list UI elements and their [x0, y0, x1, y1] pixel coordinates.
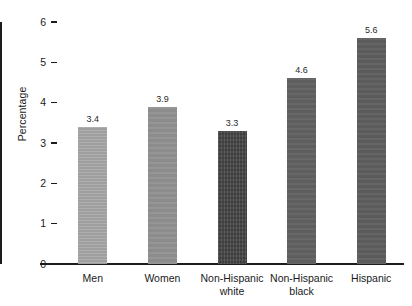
bar — [287, 78, 316, 264]
bar-value-label: 5.6 — [351, 26, 392, 35]
x-axis-category-label: Non-Hispanic white — [195, 272, 269, 297]
x-axis-category-label: Non-Hispanic black — [265, 272, 339, 297]
bar-group — [357, 0, 386, 264]
bar — [148, 107, 177, 264]
bar — [78, 127, 107, 264]
bar — [357, 38, 386, 264]
x-axis-category-label: Women — [126, 272, 200, 285]
x-axis-category-label: Hispanic — [334, 272, 408, 285]
bar-value-label: 4.6 — [281, 66, 322, 75]
bars-layer: 3.43.93.34.65.6 — [0, 0, 412, 306]
bar-value-label: 3.9 — [142, 95, 183, 104]
bar-group — [78, 85, 107, 264]
bar — [218, 131, 247, 264]
x-axis-category-label: Men — [56, 272, 130, 285]
bar-value-label: 3.4 — [72, 115, 113, 124]
bar-chart: Percentage 0123456 3.43.93.34.65.6 MenWo… — [0, 0, 412, 306]
bar-value-label: 3.3 — [212, 119, 253, 128]
bar-group — [218, 89, 247, 264]
